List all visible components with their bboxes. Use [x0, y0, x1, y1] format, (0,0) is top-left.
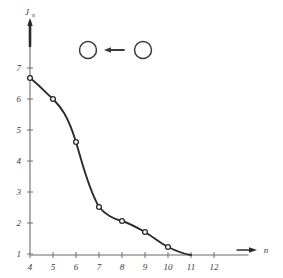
plot-area: 7 6 5 4 3 2 1 J n	[0, 0, 283, 278]
y-tick-label-1: 1	[17, 249, 22, 259]
y-axis-arrowhead	[27, 18, 32, 26]
y-tick-label-4: 4	[17, 156, 22, 166]
y-tick-label-3: 3	[16, 187, 22, 197]
y-tick-label-6: 6	[17, 94, 22, 104]
legend-right-circle-icon	[135, 42, 152, 59]
x-tick-label-10: 10	[164, 262, 174, 272]
y-tick-label-7: 7	[17, 63, 22, 73]
x-tick-label-12: 12	[210, 262, 220, 272]
legend	[80, 42, 152, 59]
x-tick-label-4: 4	[28, 262, 33, 272]
x-axis-group: 4 5 6 7 8 9 10 11 12 n	[28, 245, 269, 272]
legend-left-circle-icon	[80, 42, 97, 59]
x-axis-title: n	[264, 245, 269, 255]
legend-left-arrow-icon	[104, 47, 111, 52]
series-line-Jn	[30, 78, 191, 255]
data-point-marker	[97, 205, 102, 210]
data-point-marker	[143, 230, 148, 235]
x-tick-label-6: 6	[74, 262, 79, 272]
y-axis-title: J	[25, 7, 30, 17]
data-point-marker	[28, 76, 33, 81]
y-axis-title-subscript: n	[32, 12, 35, 18]
y-axis-group: 7 6 5 4 3 2 1 J n	[16, 7, 36, 259]
x-tick-label-5: 5	[51, 262, 56, 272]
data-series-curve	[30, 78, 191, 255]
data-point-marker	[74, 140, 79, 145]
data-point-marker	[120, 219, 125, 224]
figure-canvas: 7 6 5 4 3 2 1 J n	[0, 0, 283, 278]
data-point-marker	[51, 97, 56, 102]
y-tick-label-2: 2	[17, 218, 22, 228]
y-tick-label-5: 5	[17, 125, 22, 135]
x-tick-label-11: 11	[187, 262, 195, 272]
x-tick-label-9: 9	[143, 262, 148, 272]
x-axis-arrowhead	[249, 247, 257, 253]
x-tick-label-8: 8	[120, 262, 125, 272]
x-tick-label-7: 7	[97, 262, 102, 272]
data-point-marker	[166, 245, 171, 250]
data-point-markers	[28, 76, 171, 250]
